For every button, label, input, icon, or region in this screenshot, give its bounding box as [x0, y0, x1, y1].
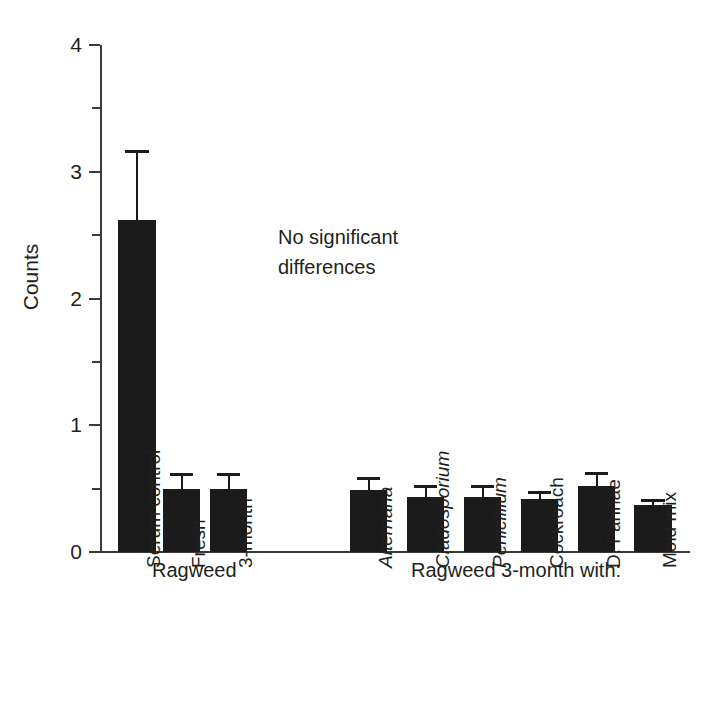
- bar-chart-figure: Counts 43210 Serum controlFresh3-monthAl…: [0, 0, 721, 726]
- x-axis-label: Cladosporium: [433, 388, 452, 568]
- x-axis-label: Alternaria: [376, 388, 395, 568]
- y-tick-minor: [92, 107, 100, 109]
- group-label-ragweed-3-month-with: Ragweed 3-month with:: [411, 560, 621, 580]
- x-axis-label: Mold mix: [660, 388, 679, 568]
- x-axis-label: 3-month: [236, 388, 255, 568]
- y-tick-minor: [92, 234, 100, 236]
- error-bar-stem: [136, 150, 138, 220]
- group-label-ragweed: Ragweed: [152, 560, 237, 580]
- x-axis-label: D. Farinae: [604, 388, 623, 568]
- y-tick-major: [89, 44, 100, 46]
- y-tick-label: 3: [22, 161, 82, 182]
- y-tick-minor: [92, 361, 100, 363]
- y-tick-major: [89, 551, 100, 553]
- x-axis-label: Fresh: [189, 388, 208, 568]
- y-tick-major: [89, 298, 100, 300]
- y-tick-major: [89, 424, 100, 426]
- y-tick-label: 4: [22, 34, 82, 55]
- y-tick-label: 2: [22, 288, 82, 309]
- error-bar-cap: [125, 150, 149, 153]
- y-tick-label: 0: [22, 541, 82, 562]
- x-axis-label: Serum control: [144, 388, 163, 568]
- y-axis-title: Counts: [19, 222, 43, 332]
- chart-annotation: No significant differences: [278, 222, 398, 282]
- x-axis-label: Cockroach: [547, 388, 566, 568]
- y-axis-line: [100, 45, 102, 553]
- y-tick-minor: [92, 488, 100, 490]
- y-tick-major: [89, 171, 100, 173]
- y-tick-label: 1: [22, 414, 82, 435]
- x-axis-label: Penicillium: [490, 388, 509, 568]
